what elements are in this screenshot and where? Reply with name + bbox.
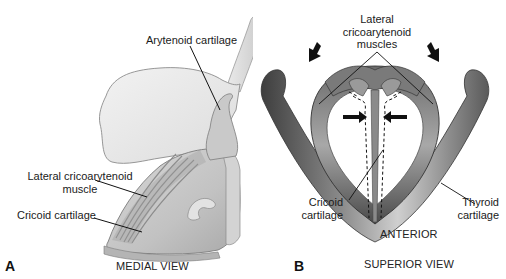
label-line: cricoarytenoid (325, 26, 429, 39)
panel-superior-view: Lateral cricoarytenoid muscles Cricoid c… (253, 0, 506, 279)
label-line: muscles (325, 38, 429, 51)
label-thyroid-cartilage: Thyroid cartilage (433, 196, 499, 221)
label-line: cartilage (281, 209, 343, 222)
panel-letter-b: B (294, 258, 304, 274)
caption-superior-view: SUPERIOR VIEW (364, 258, 454, 270)
caption-medial-view: MEDIAL VIEW (116, 260, 189, 272)
panel-medial-view: Arytenoid cartilage Lateral cricoaryteno… (0, 0, 253, 279)
label-lateral-cricoarytenoid-muscles: Lateral cricoarytenoid muscles (325, 13, 429, 51)
label-line: Thyroid (433, 196, 499, 209)
label-cricoid-cartilage: Cricoid cartilage (17, 209, 96, 222)
panel-letter-a: A (5, 258, 15, 274)
label-line: muscle (18, 183, 142, 196)
label-arytenoid-cartilage: Arytenoid cartilage (146, 34, 237, 47)
label-line: Cricoid (281, 196, 343, 209)
label-line: cartilage (433, 209, 499, 222)
epiglottis-stalk (228, 15, 253, 92)
label-cricoid-cartilage-b: Cricoid cartilage (281, 196, 343, 221)
label-line: Lateral cricoarytenoid (18, 170, 142, 183)
label-lateral-cricoarytenoid-muscle: Lateral cricoarytenoid muscle (18, 170, 142, 195)
label-anterior: ANTERIOR (380, 228, 438, 240)
label-line: Lateral (325, 13, 429, 26)
